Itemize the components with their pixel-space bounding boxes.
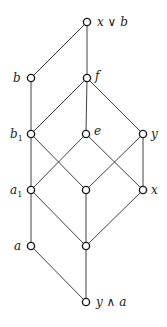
node-e [82,130,89,137]
node-xvb [83,18,90,25]
edge-a1-n [31,190,86,246]
node-y [139,130,146,137]
edge-f-b1 [31,78,87,134]
node-m [82,186,89,193]
node-yaa [82,298,89,305]
node-b1 [27,130,34,137]
label-b: b [13,71,21,85]
label-e: e [94,124,101,138]
label-f: f [94,69,102,83]
label-y: y [150,127,158,141]
label-a1-main: a [10,183,17,197]
node-x [139,186,146,193]
label-x-join-b: x ∨ b [97,15,128,29]
label-b1-main: b [10,127,18,141]
label-b1: b1 [10,127,23,143]
label-b1-sub: 1 [18,134,23,143]
label-y-meet-a: y ∧ a [95,295,126,309]
label-a1-sub: 1 [17,190,22,199]
node-f [83,74,90,81]
hasse-diagram: x ∨ b b f b1 e y a1 x a y ∧ a [0,0,167,327]
edge-a-yaa [31,246,86,302]
node-a1 [27,186,34,193]
node-b [27,74,34,81]
edge-f-e [86,78,87,134]
edges [31,22,143,302]
edge-xvb-b [31,22,87,78]
label-a1: a1 [10,183,22,199]
node-a [27,242,34,249]
label-a: a [14,239,21,253]
edge-x-n [86,190,143,246]
label-x: x [151,183,158,197]
node-n [82,242,89,249]
